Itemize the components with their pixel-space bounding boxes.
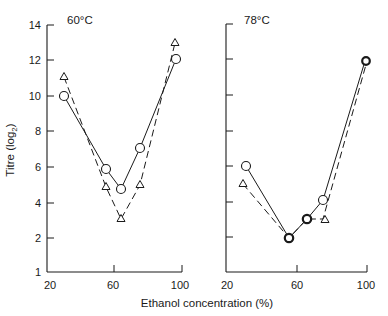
triangle-markers xyxy=(60,39,179,222)
svg-text:1: 1 xyxy=(35,266,41,278)
svg-text:2: 2 xyxy=(35,232,41,244)
x-tick-labels: 20 60 100 xyxy=(221,279,375,291)
y-tick-labels: 14 12 10 8 6 4 2 1 xyxy=(29,19,41,278)
svg-text:8: 8 xyxy=(35,125,41,137)
panel-60c: 14 12 10 8 6 4 2 1 20 60 100 60°C xyxy=(29,14,189,291)
x-tick-labels: 20 60 100 xyxy=(44,279,189,291)
y-ticks xyxy=(47,25,54,238)
circle-marker-icon xyxy=(242,162,251,171)
circle-marker-icon xyxy=(136,144,145,153)
svg-text:10: 10 xyxy=(29,90,41,102)
triangle-marker-icon xyxy=(102,183,110,190)
circle-markers xyxy=(60,55,181,194)
triangle-marker-icon xyxy=(239,180,247,187)
circle-marker-icon xyxy=(60,92,69,101)
triangle-markers xyxy=(239,180,329,223)
svg-text:100: 100 xyxy=(357,279,375,291)
overlap-circle-marker-icon xyxy=(362,57,370,65)
triangle-marker-icon xyxy=(136,181,144,188)
svg-text:20: 20 xyxy=(44,279,56,291)
x-ticks xyxy=(114,265,182,272)
circle-markers xyxy=(242,162,328,205)
circle-marker-icon xyxy=(172,55,181,64)
x-axis-label: Ethanol concentration (%) xyxy=(141,297,273,309)
y-ticks xyxy=(226,24,233,237)
overlap-circle-marker-icon xyxy=(285,234,293,242)
circle-marker-icon xyxy=(117,185,126,194)
circle-marker-icon xyxy=(102,165,111,174)
overlap-circle-marker-icon xyxy=(303,215,311,223)
panel-78c: 20 60 100 78°C xyxy=(221,14,375,291)
overlap-markers xyxy=(285,57,370,242)
y-axis-label: Titre (log2) xyxy=(4,123,19,176)
triangle-marker-icon xyxy=(60,73,68,80)
series-circle-solid-line xyxy=(246,61,365,238)
svg-text:14: 14 xyxy=(29,19,41,31)
triangle-marker-icon xyxy=(171,39,179,46)
x-ticks xyxy=(297,265,367,272)
svg-text:100: 100 xyxy=(171,279,189,291)
triangle-marker-icon xyxy=(117,215,125,222)
circle-marker-icon xyxy=(319,196,328,205)
svg-text:20: 20 xyxy=(221,279,233,291)
panel-title-60c: 60°C xyxy=(67,14,93,26)
svg-text:4: 4 xyxy=(35,197,41,209)
titre-ethanol-chart: Titre (log2) 14 12 10 8 6 4 2 xyxy=(0,0,388,316)
panel-title-78c: 78°C xyxy=(244,14,270,26)
svg-text:60: 60 xyxy=(107,279,119,291)
series-circle-solid-line xyxy=(64,59,176,189)
svg-text:6: 6 xyxy=(35,161,41,173)
svg-text:60: 60 xyxy=(291,279,303,291)
svg-text:12: 12 xyxy=(29,54,41,66)
series-triangle-dashed-line xyxy=(243,61,367,238)
